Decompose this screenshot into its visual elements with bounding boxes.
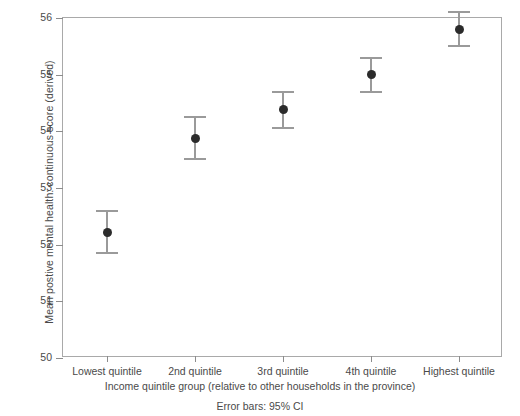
x-axis-tick-label: Lowest quintile: [72, 365, 141, 377]
y-axis-tick-label: 53: [40, 181, 52, 193]
x-axis-tick-label: 2nd quintile: [168, 365, 222, 377]
data-point-marker: [367, 70, 376, 79]
x-axis-tick: 4th quintile: [371, 356, 372, 362]
error-bar-cap-lower: [184, 158, 206, 160]
data-point-marker: [279, 105, 288, 114]
y-axis-tick: 54: [56, 131, 63, 132]
x-axis-title: Income quintile group (relative to other…: [0, 380, 520, 392]
y-axis-tick: 55: [56, 75, 63, 76]
error-bar-cap-lower: [96, 252, 118, 254]
y-axis-tick-label: 50: [40, 351, 52, 363]
x-axis-tick-label: Highest quintile: [423, 365, 495, 377]
error-bar-cap-upper: [272, 91, 294, 93]
data-point-marker: [103, 228, 112, 237]
error-bar-cap-lower: [448, 45, 470, 47]
error-bar-cap-upper: [184, 116, 206, 118]
x-axis-tick: Highest quintile: [459, 356, 460, 362]
x-axis-tick: 2nd quintile: [195, 356, 196, 362]
y-axis-tick: 56: [56, 18, 63, 19]
x-axis-tick-label: 4th quintile: [346, 365, 397, 377]
y-axis-tick-label: 56: [40, 11, 52, 23]
x-axis-tick: 3rd quintile: [283, 356, 284, 362]
y-axis-tick: 52: [56, 245, 63, 246]
x-axis-tick-label: 3rd quintile: [257, 365, 308, 377]
error-bar-cap-upper: [96, 210, 118, 212]
error-bar-caption: Error bars: 95% CI: [0, 400, 520, 412]
data-point-marker: [455, 25, 464, 34]
y-axis-tick: 50: [56, 358, 63, 359]
error-bar-cap-lower: [360, 91, 382, 93]
error-bar-cap-lower: [272, 127, 294, 129]
y-axis-tick-label: 54: [40, 124, 52, 136]
plot-area: 50515253545556 Lowest quintile2nd quinti…: [62, 17, 502, 357]
error-bar-cap-upper: [360, 57, 382, 59]
x-axis-tick: Lowest quintile: [107, 356, 108, 362]
error-bar-cap-upper: [448, 11, 470, 13]
y-axis-tick-label: 52: [40, 238, 52, 250]
y-axis-tick: 53: [56, 188, 63, 189]
chart-figure: Mean postive mental health: continuous s…: [0, 0, 520, 416]
y-axis-tick-label: 51: [40, 294, 52, 306]
y-axis-tick-label: 55: [40, 68, 52, 80]
y-axis-tick: 51: [56, 301, 63, 302]
data-point-marker: [191, 134, 200, 143]
